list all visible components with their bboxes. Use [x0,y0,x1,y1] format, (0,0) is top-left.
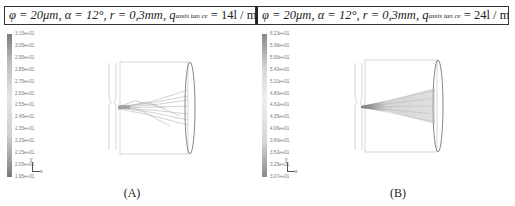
caption-b: (B) [378,186,418,201]
tick-label: 2.35e+01 [15,126,34,132]
colorbar [7,34,12,177]
q-subscript: assis tan ce [175,12,207,20]
tick-label: 2.65e+01 [15,91,34,97]
alpha-value: α = 12°, [318,8,360,23]
phi-value: φ = 20μm, [9,8,62,23]
tick-label: 3.07e+01 [270,174,289,180]
phi-value: φ = 20μm, [262,8,315,23]
tick-label: 2.75e+01 [15,79,34,85]
q-subscript: assis tan ce [428,12,460,20]
caption-a: (A) [112,186,152,201]
axis-triad: y x [30,160,44,174]
particle-trajectory-plot [60,30,250,180]
tick-label: 3.15e+01 [15,31,34,37]
parameters-left: φ = 20μm, α = 12°, r = 0,3mm, qassis tan… [4,6,256,25]
x-axis-label: x [40,168,43,174]
particle-trajectory-plot [315,30,505,180]
tick-label: 4.62e+01 [270,102,289,108]
tick-label: 2.25e+01 [15,138,34,144]
axis-triad: y x [285,160,299,174]
tick-label: 6.23e+01 [270,31,289,37]
r-value: r = 0,3mm, [363,8,419,23]
tick-label: 5.10e+01 [270,79,289,85]
q-value: = 24l / min [464,8,509,23]
tick-label: 3.80e+01 [270,138,289,144]
tick-label: 1.95e+01 [15,174,34,180]
simulation-panel-a: 3.15e+01 3.05e+01 2.95e+01 2.85e+01 2.75… [4,30,256,182]
tick-label: 2.85e+01 [15,67,34,73]
tick-label: 2.55e+01 [15,102,34,108]
r-value: r = 0,3mm, [110,8,166,23]
q-value: = 14l / min [211,8,256,23]
tick-label: 2.45e+01 [15,114,34,120]
tick-label: 4.80e+01 [270,91,289,97]
colorbar [262,34,267,177]
tick-label: 5.40e+01 [270,67,289,73]
simulation-panel-b: 6.23e+01 5.98e+01 5.68e+01 5.40e+01 5.10… [259,30,511,182]
tick-label: 4.06e+01 [270,126,289,132]
y-axis-label: y [30,156,33,162]
alpha-value: α = 12°, [65,8,107,23]
tick-label: 5.98e+01 [270,43,289,49]
tick-label: 3.05e+01 [15,43,34,49]
x-axis-label: x [295,168,298,174]
parameters-right: φ = 20μm, α = 12°, r = 0,3mm, qassis tan… [256,6,509,25]
y-axis-label: y [285,156,288,162]
tick-label: 2.95e+01 [15,55,34,61]
tick-label: 5.68e+01 [270,55,289,61]
parameter-header: φ = 20μm, α = 12°, r = 0,3mm, qassis tan… [4,6,509,26]
tick-label: 4.35e+01 [270,114,289,120]
